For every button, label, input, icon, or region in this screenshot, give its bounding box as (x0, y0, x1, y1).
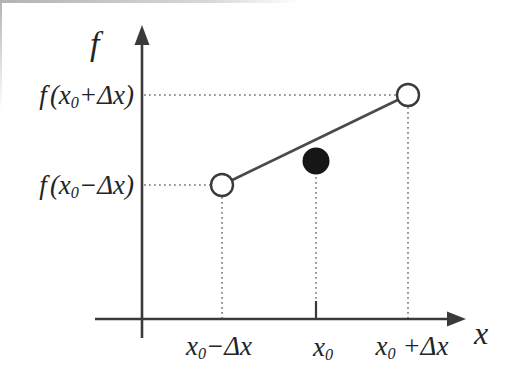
label-part-open: (x (50, 80, 71, 110)
label-part-base: x (186, 331, 198, 361)
scan-edge-left (0, 0, 2, 110)
label-part-open: (x (50, 170, 71, 200)
label-x0: x0 (283, 332, 363, 364)
label-part-f: f (39, 80, 47, 110)
label-x0-plus-dx: x0 +Δx (352, 331, 472, 363)
point-open-left (211, 174, 233, 196)
label-part-rest: −Δx) (79, 170, 134, 200)
finite-difference-figure: f x f(x0+Δx) f(x0−Δx) x0−Δx x0 x0 +Δx (0, 0, 522, 384)
y-axis-arrowhead (135, 25, 150, 45)
label-part-sub: 0 (71, 94, 79, 112)
x-axis-arrowhead (447, 312, 466, 327)
label-part-sub: 0 (388, 345, 396, 363)
label-part-rest: −Δx (206, 331, 252, 361)
label-x0-minus-dx: x0−Δx (159, 331, 279, 363)
label-part-sub: 0 (325, 346, 333, 364)
label-part-f: f (39, 170, 47, 200)
label-part-rest: +Δx (396, 331, 449, 361)
label-part-rest: +Δx) (79, 80, 134, 110)
label-part-base: x (313, 332, 325, 362)
x-axis-label: x (474, 315, 488, 352)
label-f-x0-plus-dx: f(x0+Δx) (26, 80, 134, 112)
y-axis-label: f (90, 24, 99, 63)
label-part-sub: 0 (71, 184, 79, 202)
label-part-base: x (376, 331, 388, 361)
label-part-sub: 0 (198, 345, 206, 363)
point-open-right (397, 84, 419, 106)
scan-edge-top (0, 0, 300, 3)
label-f-x0-minus-dx: f(x0−Δx) (26, 170, 134, 202)
point-filled-center (303, 148, 330, 175)
